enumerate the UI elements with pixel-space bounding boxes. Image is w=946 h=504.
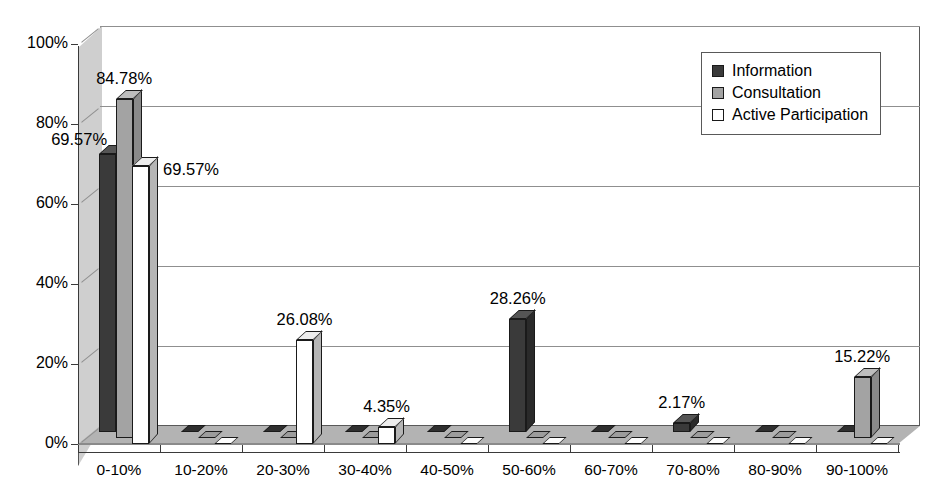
legend-label: Active Participation (732, 106, 868, 124)
x-axis-label: 20-30% (242, 461, 324, 478)
legend-item-information: Information (712, 60, 868, 82)
bar (854, 377, 871, 438)
gridline (100, 266, 920, 267)
x-axis-tick (652, 445, 653, 453)
y-axis-tick (71, 204, 78, 205)
bar-face (509, 319, 526, 432)
x-axis-tick (160, 445, 161, 453)
x-axis-tick (570, 445, 571, 453)
legend-swatch-icon (712, 65, 724, 77)
y-axis-label: 100% (6, 35, 68, 51)
bar-face (854, 377, 871, 438)
x-axis-tick (78, 445, 79, 453)
bar-face (673, 423, 690, 432)
bar (116, 99, 133, 438)
bar-value-label: 2.17% (648, 393, 716, 411)
y-axis-tick (71, 284, 78, 285)
y-axis-tick (71, 124, 78, 125)
bar-value-label: 15.22% (828, 347, 896, 365)
bar-chart: 0%20%40%60%80%100% 69.57%28.26%2.17%84.7… (0, 0, 946, 504)
bar (99, 154, 116, 432)
bar-face (378, 427, 395, 444)
chart-floor-edge (78, 443, 900, 445)
bar-side (313, 330, 322, 444)
gridline (100, 26, 920, 27)
x-axis-label: 30-40% (324, 461, 406, 478)
x-axis-label: 40-50% (406, 461, 488, 478)
bar-face (116, 99, 133, 438)
bar-side (149, 156, 158, 444)
legend-item-active-participation: Active Participation (712, 104, 868, 126)
x-axis-tick (898, 445, 899, 453)
x-axis-tick (242, 445, 243, 453)
y-axis-tick (71, 44, 78, 45)
x-axis-label: 90-100% (816, 461, 898, 478)
bar-face (132, 166, 149, 444)
bar-side (526, 309, 535, 432)
x-axis-label: 80-90% (734, 461, 816, 478)
y-axis-label: 20% (6, 355, 68, 371)
bar (509, 319, 526, 432)
legend-swatch-icon (712, 109, 724, 121)
bar (673, 423, 690, 432)
y-axis-tick (71, 444, 78, 445)
legend-label: Information (732, 62, 812, 80)
bar-value-label: 28.26% (484, 289, 552, 307)
x-axis-label: 10-20% (160, 461, 242, 478)
x-axis-tick (406, 445, 407, 453)
legend-item-consultation: Consultation (712, 82, 868, 104)
y-axis-label: 40% (6, 275, 68, 291)
y-axis-tick (71, 364, 78, 365)
x-axis-line (78, 452, 900, 453)
bar-side (871, 367, 880, 438)
x-axis-label: 60-70% (570, 461, 652, 478)
bar (132, 166, 149, 444)
x-axis-tick (488, 445, 489, 453)
x-axis-tick (734, 445, 735, 453)
legend-label: Consultation (732, 84, 821, 102)
bar-value-label: 4.35% (353, 397, 421, 415)
x-axis-label: 50-60% (488, 461, 570, 478)
bar-value-label: 26.08% (271, 310, 339, 328)
bar (378, 427, 395, 444)
bar (296, 340, 313, 444)
x-axis-tick (324, 445, 325, 453)
x-axis-label: 0-10% (78, 461, 160, 478)
legend-swatch-icon (712, 87, 724, 99)
bar-face (99, 154, 116, 432)
bar-value-label: 69.57% (51, 130, 107, 148)
bar-face (296, 340, 313, 444)
bar-value-label: 84.78% (90, 69, 158, 87)
x-axis-label: 70-80% (652, 461, 734, 478)
y-axis-label: 80% (6, 115, 68, 131)
y-axis-label: 0% (6, 435, 68, 451)
x-axis-tick (816, 445, 817, 453)
gridline (100, 186, 920, 187)
chart-legend: Information Consultation Active Particip… (701, 52, 881, 135)
y-axis-label: 60% (6, 195, 68, 211)
bar-value-label: 69.57% (163, 160, 219, 178)
y-axis-line (78, 46, 79, 444)
